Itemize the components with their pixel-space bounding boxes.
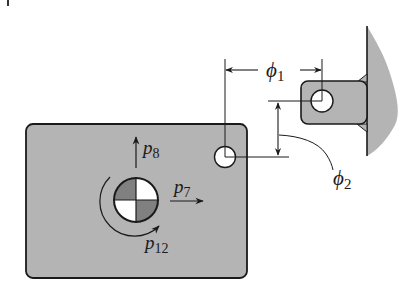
label-phi2: ϕ2: [333, 166, 351, 192]
crop-artifact: [7, 0, 9, 6]
wall: [367, 26, 398, 156]
mechanism-diagram: p8 p7 p12 ϕ1 ϕ2: [0, 0, 415, 291]
bracket-lug: [301, 81, 367, 124]
phi2-leader-line: [279, 135, 333, 170]
center-of-mass-icon: [114, 178, 158, 222]
weld-bottom: [357, 124, 367, 132]
label-phi1: ϕ1: [266, 58, 284, 84]
wall-shading: [367, 26, 398, 156]
